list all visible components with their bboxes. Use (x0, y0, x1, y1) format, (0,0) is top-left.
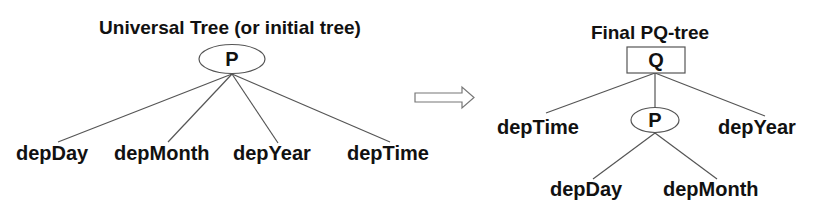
left-leaf-deptime: depTime (347, 143, 429, 163)
edge-p-deptime (232, 74, 390, 142)
right-leaf-depmonth: depMonth (663, 179, 759, 199)
left-leaf-depday: depDay (16, 143, 88, 163)
left-tree-edges (58, 74, 390, 143)
edge-p-depday (58, 74, 232, 142)
right-leaf-depyear: depYear (718, 117, 796, 137)
edge-p-depday (593, 133, 655, 179)
edge-q-depyear (655, 73, 765, 116)
left-leaf-depmonth: depMonth (114, 143, 210, 163)
left-p-node-label: P (225, 49, 238, 69)
edge-p-depmonth (168, 74, 232, 142)
edge-q-deptime (546, 73, 655, 113)
edge-p-depmonth (655, 133, 717, 179)
left-tree-title: Universal Tree (or initial tree) (99, 18, 361, 37)
hollow-right-arrow-icon (415, 87, 474, 108)
right-leaf-depday: depDay (550, 179, 622, 199)
right-p-node-label: P (648, 110, 661, 130)
right-tree-title: Final PQ-tree (591, 23, 709, 42)
right-leaf-deptime: depTime (497, 117, 579, 137)
left-leaf-depyear: depYear (233, 143, 311, 163)
right-q-node-label: Q (648, 50, 664, 70)
